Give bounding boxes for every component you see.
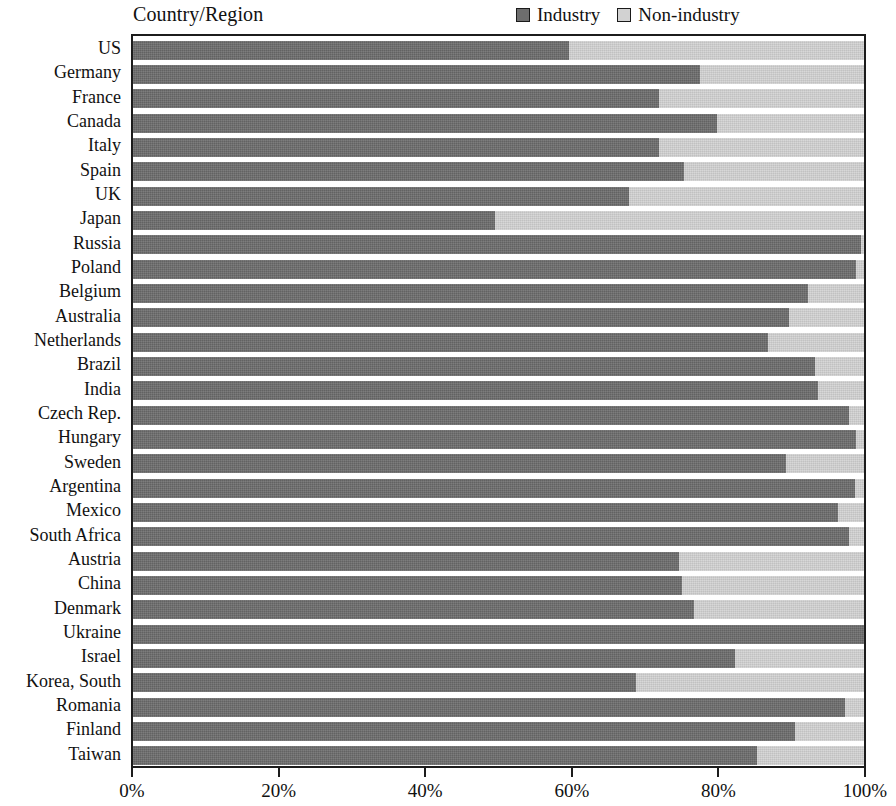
bar-row — [133, 135, 864, 159]
bar-segment-non-industry — [845, 698, 864, 717]
category-tick: Germany — [0, 60, 127, 84]
bar-row — [133, 160, 864, 184]
value-axis-tick-mark — [131, 768, 133, 777]
category-tick: France — [0, 85, 127, 109]
value-axis-tick-label: 0% — [119, 779, 144, 803]
bar-track — [133, 114, 864, 133]
bar-row — [133, 111, 864, 135]
category-tick: Australia — [0, 304, 127, 328]
bar-track — [133, 552, 864, 571]
bar-segment-non-industry — [861, 235, 864, 254]
bar-segment-non-industry — [659, 138, 864, 157]
bar-segment-industry — [133, 503, 838, 522]
category-label: Argentina — [49, 476, 121, 496]
bar-track — [133, 381, 864, 400]
category-tick: Belgium — [0, 279, 127, 303]
value-axis-tick-mark — [864, 768, 866, 777]
category-label: South Africa — [30, 525, 122, 545]
category-label: UK — [95, 184, 121, 204]
bar-row — [133, 744, 864, 768]
value-axis-tick-label: 40% — [408, 779, 443, 803]
bar-segment-industry — [133, 430, 856, 449]
bar-segment-non-industry — [700, 65, 864, 84]
category-label: US — [98, 38, 121, 58]
bar-row — [133, 646, 864, 670]
category-tick: Austria — [0, 547, 127, 571]
category-label: Taiwan — [68, 744, 121, 764]
bar-segment-industry — [133, 722, 795, 741]
category-label: Spain — [80, 160, 121, 180]
bar-segment-industry — [133, 576, 682, 595]
category-tick: Korea, South — [0, 669, 127, 693]
bar-segment-non-industry — [795, 722, 864, 741]
bars-container — [133, 36, 864, 766]
category-label: India — [84, 379, 121, 399]
category-tick: Denmark — [0, 596, 127, 620]
category-tick: UK — [0, 182, 127, 206]
bar-segment-non-industry — [808, 284, 864, 303]
bar-segment-industry — [133, 138, 659, 157]
chart-legend: Industry Non-industry — [516, 2, 740, 28]
legend-label-industry: Industry — [537, 4, 600, 26]
bar-track — [133, 430, 864, 449]
category-label: Australia — [55, 306, 121, 326]
category-label: Korea, South — [26, 671, 121, 691]
bar-segment-non-industry — [768, 333, 864, 352]
bar-row — [133, 719, 864, 743]
bar-row — [133, 62, 864, 86]
category-tick: Russia — [0, 231, 127, 255]
category-tick: Netherlands — [0, 328, 127, 352]
bar-row — [133, 330, 864, 354]
bar-segment-non-industry — [682, 576, 864, 595]
bar-row — [133, 476, 864, 500]
category-tick: Ukraine — [0, 620, 127, 644]
bar-segment-non-industry — [789, 308, 864, 327]
bar-segment-non-industry — [629, 187, 864, 206]
value-axis-tick-label: 80% — [701, 779, 736, 803]
bar-segment-industry — [133, 454, 786, 473]
bar-track — [133, 235, 864, 254]
category-tick: Czech Rep. — [0, 401, 127, 425]
category-label: Canada — [67, 111, 121, 131]
bar-track — [133, 746, 864, 765]
category-label: Denmark — [54, 598, 121, 618]
bar-row — [133, 598, 864, 622]
bar-segment-industry — [133, 600, 694, 619]
bar-track — [133, 211, 864, 230]
bar-track — [133, 406, 864, 425]
category-tick: Israel — [0, 644, 127, 668]
bar-row — [133, 549, 864, 573]
bar-segment-industry — [133, 649, 735, 668]
bar-segment-industry — [133, 479, 855, 498]
category-label: Japan — [80, 208, 121, 228]
category-tick: Hungary — [0, 425, 127, 449]
category-label: Belgium — [59, 281, 121, 301]
category-label: Romania — [56, 695, 121, 715]
legend-label-non-industry: Non-industry — [638, 4, 739, 26]
bar-row — [133, 38, 864, 62]
category-tick: Spain — [0, 158, 127, 182]
bar-row — [133, 257, 864, 281]
stacked-bar-chart: Country/Region Industry Non-industry USG… — [0, 0, 896, 806]
bar-track — [133, 698, 864, 717]
bar-segment-non-industry — [717, 114, 864, 133]
bar-track — [133, 89, 864, 108]
legend-swatch-non-industry — [617, 8, 631, 22]
bar-row — [133, 573, 864, 597]
category-tick: Canada — [0, 109, 127, 133]
category-tick: Italy — [0, 133, 127, 157]
bar-row — [133, 354, 864, 378]
category-tick: Poland — [0, 255, 127, 279]
category-label: Sweden — [64, 452, 121, 472]
bar-segment-non-industry — [856, 430, 864, 449]
bar-segment-industry — [133, 308, 789, 327]
category-label: Brazil — [77, 354, 121, 374]
bar-row — [133, 184, 864, 208]
bar-row — [133, 622, 864, 646]
bar-track — [133, 649, 864, 668]
category-label: Germany — [54, 62, 121, 82]
category-label: France — [72, 87, 121, 107]
bar-segment-industry — [133, 65, 700, 84]
value-axis-tick-label: 20% — [261, 779, 296, 803]
category-label: Czech Rep. — [38, 403, 121, 423]
